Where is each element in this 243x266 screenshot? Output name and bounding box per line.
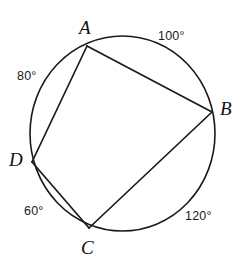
vertex-label-B: B xyxy=(220,99,232,118)
arc-measure-BC: 120° xyxy=(185,210,212,223)
vertex-label-D: D xyxy=(9,150,23,169)
vertex-label-A: A xyxy=(79,18,91,37)
vertex-label-C: C xyxy=(81,238,94,257)
geometry-figure: A B C D 100° 120° 60° 80° xyxy=(0,0,243,266)
arc-measure-CD: 60° xyxy=(24,205,44,218)
chord-CD xyxy=(32,162,89,228)
geometry-canvas xyxy=(0,0,243,266)
arc-measure-DA: 80° xyxy=(17,70,37,83)
chord-AB xyxy=(87,46,212,112)
chord-DA xyxy=(32,46,87,162)
arc-measure-AB: 100° xyxy=(158,30,185,43)
